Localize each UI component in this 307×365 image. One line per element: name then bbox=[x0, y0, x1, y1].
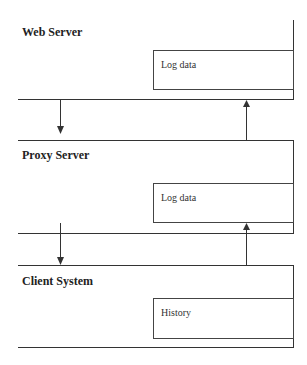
arrow-down-web-to-proxy-icon bbox=[57, 99, 64, 134]
arrow-up-client-to-proxy-icon bbox=[243, 223, 250, 265]
arrows-layer bbox=[0, 0, 307, 365]
arrow-up-proxy-to-web-icon bbox=[243, 100, 250, 140]
arrow-down-proxy-to-client-icon bbox=[57, 223, 64, 265]
